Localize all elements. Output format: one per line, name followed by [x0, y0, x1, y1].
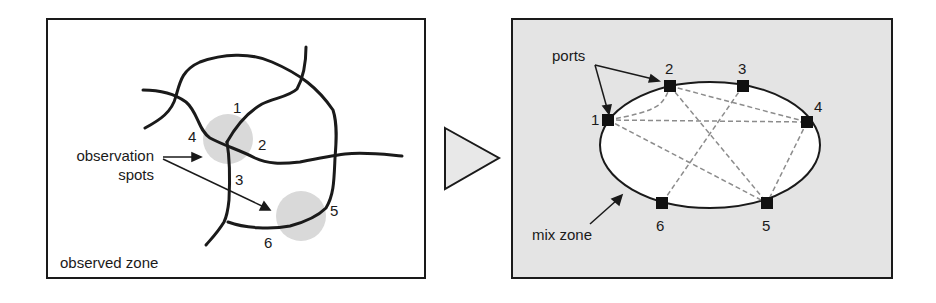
- ports-label: ports: [552, 47, 585, 64]
- port-label-4: 4: [814, 98, 822, 115]
- port-label-6: 6: [656, 217, 664, 234]
- road-label-4: 4: [188, 128, 196, 145]
- observed-zone-panel: 1 2 3 4 5 6 observation spots observed z…: [47, 19, 425, 278]
- port-label-1: 1: [591, 111, 599, 128]
- port-2: [664, 80, 676, 92]
- observation-spots-label-line1: observation: [76, 147, 154, 164]
- port-5: [761, 197, 773, 209]
- road-label-6: 6: [264, 234, 272, 251]
- observation-spot-lower: [276, 191, 326, 241]
- mix-zone-panel: 1 2 3 4 5 6 ports mix zone: [512, 19, 892, 278]
- mix-zone-ellipse: [600, 82, 820, 208]
- port-1: [602, 114, 614, 126]
- transition-arrow-icon: [445, 128, 499, 189]
- road-label-1: 1: [233, 99, 241, 116]
- port-6: [656, 197, 668, 209]
- road-label-2: 2: [258, 136, 266, 153]
- road-label-3: 3: [235, 171, 243, 188]
- port-label-2: 2: [665, 60, 673, 77]
- mix-zone-label: mix zone: [532, 226, 592, 243]
- observed-zone-caption: observed zone: [60, 254, 158, 271]
- port-4: [801, 116, 813, 128]
- diagram-canvas: 1 2 3 4 5 6 observation spots observed z…: [0, 0, 936, 303]
- observation-spots-label-line2: spots: [118, 166, 154, 183]
- road-label-5: 5: [330, 202, 338, 219]
- port-label-3: 3: [738, 60, 746, 77]
- port-3: [737, 80, 749, 92]
- port-label-5: 5: [762, 217, 770, 234]
